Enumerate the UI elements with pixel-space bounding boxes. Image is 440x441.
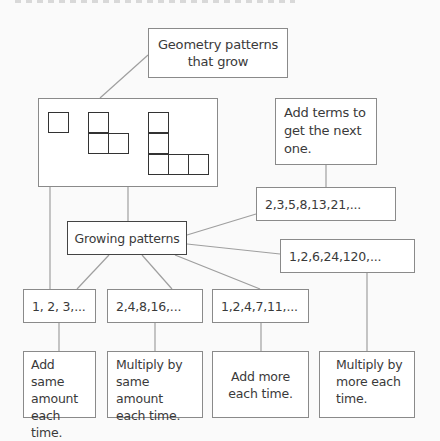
square-pattern-box (38, 98, 218, 187)
sequence-box-add-more: 1,2,4,7,11,... (212, 289, 309, 323)
rule-box-add-more: Add more each time. (212, 351, 309, 418)
square-shape-3c (148, 154, 169, 175)
rule-label: Multiply by same amount each time. (116, 357, 182, 423)
rule-label: Multiply by more each time. (336, 357, 402, 406)
rule-box-multiply-same: Multiply by same amount each time. (107, 351, 203, 418)
sequence-box-multiply-same: 2,4,8,16,... (107, 289, 203, 323)
growing-patterns-box: Growing patterns (67, 221, 187, 255)
square-shape-3b (148, 133, 169, 154)
sequence-label: 1, 2, 3,... (32, 299, 85, 314)
geometry-patterns-label: Geometry patterns that grow (158, 36, 278, 70)
square-shape-1 (48, 112, 69, 133)
fibonacci-sequence-label: 2,3,5,8,13,21,... (265, 197, 361, 212)
square-shape-3d (168, 154, 189, 175)
rule-box-add-same: Add same amount each time. (23, 351, 96, 418)
factorial-sequence-box: 1,2,6,24,120,... (280, 239, 415, 273)
rule-label: Add more each time. (228, 368, 292, 402)
growing-patterns-label: Growing patterns (75, 230, 180, 247)
sequence-box-add-same: 1, 2, 3,... (23, 289, 96, 323)
add-terms-box: Add terms to get the next one. (275, 98, 377, 165)
sequence-label: 2,4,8,16,... (116, 299, 181, 314)
rule-box-multiply-more: Multiply by more each time. (319, 351, 415, 418)
add-terms-label: Add terms to get the next one. (284, 105, 366, 156)
factorial-sequence-label: 1,2,6,24,120,... (289, 249, 381, 264)
square-shape-3e (188, 154, 209, 175)
square-shape-2a (88, 112, 109, 133)
sequence-label: 1,2,4,7,11,... (221, 299, 298, 314)
square-shape-2b (88, 133, 109, 154)
square-shape-3a (148, 112, 169, 133)
fibonacci-sequence-box: 2,3,5,8,13,21,... (256, 187, 396, 221)
square-shape-2c (108, 133, 129, 154)
geometry-patterns-box: Geometry patterns that grow (148, 28, 288, 78)
